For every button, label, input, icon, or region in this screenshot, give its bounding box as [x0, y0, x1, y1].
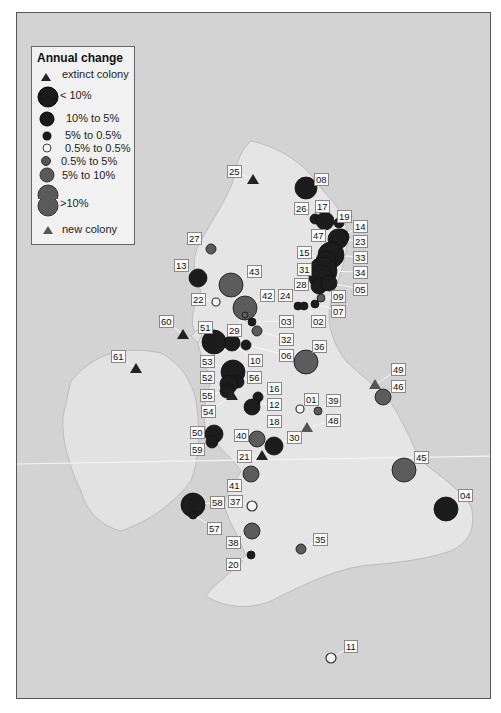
- circle-icon-5to10: [40, 168, 54, 182]
- colony-label-30: 30: [287, 431, 302, 444]
- circle-icon-5to05: [43, 132, 52, 141]
- legend-label-5to05: 5% to 0.5%: [65, 129, 121, 141]
- colony-label-10: 10: [248, 354, 263, 367]
- triangle-icon-new: [43, 226, 53, 234]
- colony-label-32: 32: [279, 333, 294, 346]
- colony-marker-07: [311, 300, 319, 308]
- triangle-icon-extinct: [41, 73, 51, 81]
- colony-marker-46: [375, 389, 391, 405]
- colony-label-43: 43: [247, 265, 262, 278]
- colony-marker-57: [189, 511, 197, 519]
- colony-marker-22: [212, 298, 220, 306]
- colony-label-35: 35: [313, 533, 328, 546]
- colony-label-19: 19: [337, 210, 352, 223]
- colony-marker-38: [244, 523, 260, 539]
- colony-label-14: 14: [353, 220, 368, 233]
- colony-label-34: 34: [353, 266, 368, 279]
- legend-label-extinct: extinct colony: [62, 68, 129, 80]
- colony-label-05: 05: [353, 283, 368, 296]
- colony-marker-05: [321, 275, 337, 291]
- colony-label-45: 45: [414, 451, 429, 464]
- colony-label-12: 12: [267, 398, 282, 411]
- legend-label-05to5: 0.5% to 5%: [61, 155, 117, 167]
- colony-label-54: 54: [201, 405, 216, 418]
- legend-label-gt10: >10%: [60, 197, 88, 209]
- colony-marker-09: [317, 294, 325, 302]
- colony-label-24: 24: [278, 289, 293, 302]
- circle-icon-10to5: [40, 112, 54, 126]
- colony-marker-04: [434, 497, 458, 521]
- colony-marker-02: [300, 302, 308, 310]
- colony-marker-39: [314, 407, 322, 415]
- colony-marker-32: [252, 326, 262, 336]
- colony-label-18: 18: [267, 415, 282, 428]
- colony-label-11: 11: [344, 640, 358, 653]
- colony-label-37: 37: [228, 495, 243, 508]
- colony-marker-30: [265, 437, 283, 455]
- legend-continued: >10% new colony: [31, 199, 135, 245]
- colony-marker-17: [316, 212, 334, 230]
- legend-label-lt10: < 10%: [60, 89, 92, 101]
- colony-label-25: 25: [227, 165, 242, 178]
- colony-label-27: 27: [187, 232, 202, 245]
- colony-label-39: 39: [326, 394, 341, 407]
- colony-label-57: 57: [207, 522, 222, 535]
- legend: Annual change extinct colony < 10% 10% t…: [31, 46, 135, 200]
- colony-marker-60: [177, 329, 189, 339]
- colony-label-06: 06: [279, 349, 294, 362]
- colony-label-61: 61: [111, 350, 126, 363]
- colony-marker-18: [244, 399, 260, 415]
- colony-marker-03: [248, 318, 256, 326]
- colony-label-59: 59: [190, 443, 205, 456]
- circle-icon-05to05: [43, 144, 51, 152]
- circle-icon-gt10-b: [38, 199, 58, 216]
- colony-marker-20: [247, 551, 255, 559]
- circle-icon-lt10: [38, 87, 58, 107]
- colony-label-42: 42: [260, 289, 275, 302]
- colony-label-50: 50: [190, 426, 205, 439]
- colony-label-46: 46: [391, 380, 406, 393]
- colony-label-20: 20: [226, 558, 241, 571]
- colony-marker-06: [241, 340, 251, 350]
- colony-marker-37: [247, 501, 257, 511]
- colony-label-58: 58: [210, 496, 225, 509]
- legend-label-10to5: 10% to 5%: [66, 112, 119, 124]
- colony-label-41: 41: [227, 479, 242, 492]
- colony-marker-35: [296, 544, 306, 554]
- colony-label-22: 22: [191, 293, 206, 306]
- colony-label-52: 52: [200, 371, 215, 384]
- colony-label-08: 08: [314, 173, 329, 186]
- colony-label-29: 29: [227, 324, 242, 337]
- colony-label-48: 48: [326, 414, 341, 427]
- colony-label-23: 23: [353, 235, 368, 248]
- colony-label-16: 16: [267, 382, 282, 395]
- colony-label-31: 31: [297, 263, 312, 276]
- colony-label-53: 53: [200, 355, 215, 368]
- legend-label-5to10: 5% to 10%: [62, 169, 115, 181]
- colony-label-40: 40: [234, 429, 249, 442]
- circle-icon-05to5: [42, 157, 51, 166]
- colony-label-13: 13: [174, 259, 189, 272]
- colony-label-36: 36: [312, 340, 327, 353]
- colony-marker-13: [189, 269, 207, 287]
- legend-label-new: new colony: [62, 223, 117, 235]
- colony-label-28: 28: [294, 278, 309, 291]
- colony-label-15: 15: [297, 246, 312, 259]
- colony-label-55: 55: [200, 389, 215, 402]
- colony-label-49: 49: [391, 363, 406, 376]
- colony-label-09: 09: [331, 290, 346, 303]
- colony-marker-27: [206, 244, 216, 254]
- colony-marker-41: [243, 466, 259, 482]
- land-ireland: [63, 350, 199, 531]
- colony-label-02: 02: [311, 315, 326, 328]
- colony-marker-59: [206, 436, 218, 448]
- colony-label-47: 47: [311, 229, 326, 242]
- colony-label-33: 33: [353, 251, 368, 264]
- colony-label-17: 17: [315, 200, 330, 213]
- colony-marker-01: [296, 405, 304, 413]
- colony-marker-11: [326, 653, 336, 663]
- colony-marker-45: [392, 458, 416, 482]
- legend-label-05to05: 0.5% to 0.5%: [65, 142, 130, 154]
- colony-label-60: 60: [159, 315, 174, 328]
- colony-marker-10: [224, 335, 240, 351]
